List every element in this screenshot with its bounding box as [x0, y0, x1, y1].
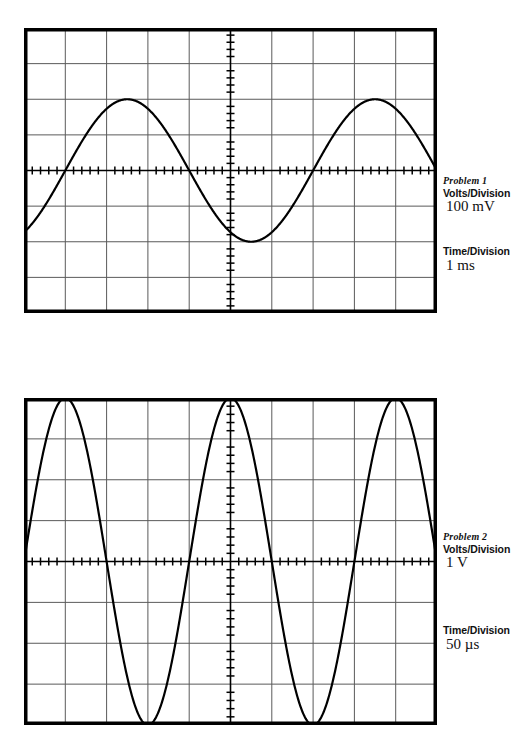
problem-title: Problem 1	[443, 175, 487, 187]
volts-per-division-value: 100 mV	[443, 198, 495, 215]
problem-title: Problem 2	[443, 531, 487, 543]
time-per-division-value: 1 ms	[443, 257, 475, 274]
scope-screen	[24, 398, 437, 725]
time-per-division-value: 50 µs	[443, 636, 479, 653]
graticule-and-trace	[24, 398, 437, 725]
graticule-and-trace	[24, 28, 437, 313]
volts-per-division-value: 1 V	[443, 554, 468, 571]
scope-screen	[24, 28, 437, 313]
